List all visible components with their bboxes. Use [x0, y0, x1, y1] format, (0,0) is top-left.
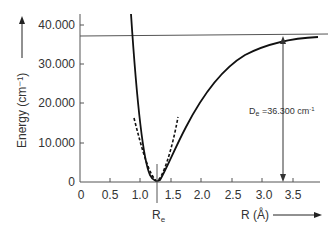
arrow-up-icon: [280, 36, 286, 44]
x-tick-label: 0.5: [102, 188, 119, 202]
y-tick-label: 20.000: [38, 96, 75, 110]
y-axis-title: Energy (cm⁻¹): [15, 73, 29, 148]
potential-energy-chart: 0 10.000 20.000 30.000 40.000 0 0.5 1.0 …: [0, 0, 335, 234]
y-tick-label: 10.000: [38, 136, 75, 150]
y-ticks: [80, 25, 84, 143]
x-tick-label: 3.5: [285, 188, 302, 202]
x-tick-label: 0: [78, 188, 85, 202]
arrow-down-icon: [280, 174, 286, 182]
arrow-up-icon: [19, 16, 25, 24]
x-ticks: [110, 178, 293, 182]
y-tick-label: 30.000: [38, 57, 75, 71]
y-tick-label: 40.000: [38, 18, 75, 32]
re-label: Re: [152, 208, 166, 224]
x-tick-label: 1.5: [165, 188, 182, 202]
dissociation-limit-line: [80, 34, 328, 36]
x-tick-label: 2.0: [194, 188, 211, 202]
y-tick-label: 0: [68, 175, 75, 189]
x-tick-label: 1.0: [132, 188, 149, 202]
x-tick-label: 3.0: [256, 188, 273, 202]
de-label: De =36.300 cm-1: [249, 106, 315, 117]
morse-curve: [131, 14, 318, 181]
x-axis-title: R (Å): [241, 207, 269, 222]
arrow-right-icon: [314, 212, 322, 218]
x-tick-label: 2.5: [225, 188, 242, 202]
